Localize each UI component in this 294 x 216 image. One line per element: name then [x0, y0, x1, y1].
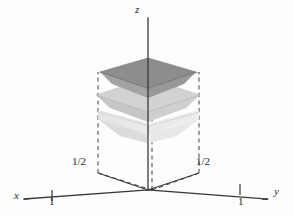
y-half-tick-label: 1/2: [196, 156, 210, 167]
x-axis-label: x: [14, 190, 19, 201]
x-one-tick-label: 1: [49, 196, 55, 207]
y-axis-label: y: [274, 186, 279, 197]
tick-marks: [52, 184, 240, 201]
x-axis-line: [24, 190, 148, 199]
axis-endcaps: [24, 199, 268, 200]
plot-svg: [0, 0, 294, 216]
x-half-segment: [98, 173, 148, 190]
y-axis-line: [148, 190, 268, 199]
figure-canvas: x y z 1/2 1/2 1 1: [0, 0, 294, 216]
y-half-segment: [148, 173, 199, 190]
x-half-tick-label: 1/2: [72, 156, 86, 167]
y-one-tick-label: 1: [238, 196, 244, 207]
z-axis-label: z: [135, 4, 139, 15]
